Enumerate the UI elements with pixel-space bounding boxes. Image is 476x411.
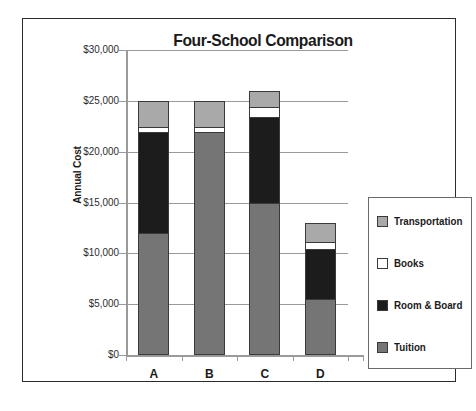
y-axis-tick: [119, 152, 126, 153]
legend-swatch-books: [377, 258, 388, 269]
bar-segment-tuition[interactable]: [250, 203, 279, 354]
bar-segment-transportation[interactable]: [139, 102, 168, 127]
bar-segment-tuition[interactable]: [139, 233, 168, 354]
bar-segment-transportation[interactable]: [195, 102, 224, 127]
bar-segment-room-board[interactable]: [250, 117, 279, 203]
x-axis-tick: [348, 355, 349, 361]
legend-label: Room & Board: [394, 299, 462, 311]
y-axis-tick: [119, 101, 126, 102]
legend-label: Transportation: [394, 215, 462, 227]
x-axis-tick: [363, 355, 364, 361]
chart-legend: TransportationBooksRoom & BoardTuition: [368, 197, 472, 369]
y-axis-tick-label: $5,000: [51, 297, 119, 309]
y-axis-tick-label: $10,000: [51, 246, 119, 258]
bar-segment-transportation[interactable]: [250, 92, 279, 107]
bar-segment-books[interactable]: [306, 242, 335, 249]
bar-segment-transportation[interactable]: [306, 224, 335, 242]
x-axis-label-c: C: [245, 367, 285, 381]
y-axis-tick: [119, 355, 126, 356]
y-axis-tick: [119, 304, 126, 305]
y-axis-tick-label: $15,000: [51, 196, 119, 208]
x-axis-tick: [293, 355, 294, 361]
chart-frame: Four-School Comparison Annual Cost $0$5,…: [22, 18, 456, 382]
y-axis-tick-label: $30,000: [51, 43, 119, 55]
y-axis-tick-labels: $0$5,000$10,000$15,000$20,000$25,000$30,…: [41, 50, 119, 355]
x-axis-tick: [237, 355, 238, 361]
y-axis-tick: [119, 203, 126, 204]
y-axis-tick-label: $25,000: [51, 94, 119, 106]
plot-area: [126, 50, 348, 355]
legend-item-room-board[interactable]: Room & Board: [377, 299, 468, 311]
x-axis-tick: [126, 355, 127, 361]
legend-swatch-transportation: [377, 216, 388, 227]
bar-segment-tuition[interactable]: [306, 299, 335, 354]
bar-c[interactable]: [249, 91, 280, 355]
legend-label: Books: [394, 257, 424, 269]
legend-swatch-room-and-board: [377, 300, 388, 311]
y-axis-tick-label: $0: [51, 348, 119, 360]
x-axis-tick: [182, 355, 183, 361]
bar-d[interactable]: [305, 223, 336, 355]
legend-label: Tuition: [394, 341, 426, 353]
legend-item-transportation[interactable]: Transportation: [377, 215, 468, 227]
bar-segment-tuition[interactable]: [195, 132, 224, 354]
y-axis-tick: [119, 253, 126, 254]
bar-segment-books[interactable]: [250, 107, 279, 117]
legend-item-books[interactable]: Books: [377, 257, 426, 269]
bar-a[interactable]: [138, 101, 169, 355]
x-axis-line: [126, 355, 363, 357]
bar-segment-room-board[interactable]: [139, 132, 168, 233]
x-axis-label-d: D: [300, 367, 340, 381]
bar-segment-room-board[interactable]: [306, 249, 335, 299]
x-axis-label-a: A: [134, 367, 174, 381]
x-axis-label-b: B: [189, 367, 229, 381]
chart-title: Four-School Comparison: [153, 31, 374, 51]
bar-b[interactable]: [194, 101, 225, 355]
legend-item-tuition[interactable]: Tuition: [377, 341, 428, 353]
y-axis-tick-label: $20,000: [51, 145, 119, 157]
gridline: [126, 50, 348, 51]
y-axis-tick: [119, 50, 126, 51]
legend-swatch-tuition: [377, 342, 388, 353]
